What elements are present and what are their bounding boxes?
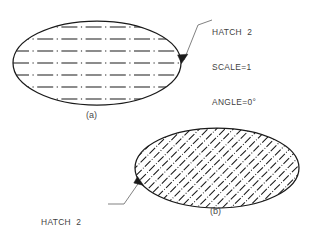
- hatch-fill-a: [13, 27, 181, 99]
- figure-a-caption: (a): [86, 110, 97, 120]
- hatch-note-bottom: HATCH 2 SCALE=0.5 ANGLE=45°: [41, 194, 90, 239]
- hatch-note-top-scale: SCALE=1: [212, 62, 256, 74]
- hatch-note-bottom-pattern: HATCH 2: [41, 217, 90, 229]
- figure-b-caption: (b): [210, 206, 221, 216]
- leader-top: [178, 20, 212, 64]
- hatch-note-top-pattern: HATCH 2: [212, 27, 256, 39]
- leader-bottom-line: [108, 181, 140, 204]
- figure-b-group: [71, 22, 319, 239]
- leader-top-arrowhead: [178, 54, 188, 63]
- hatch-note-top: HATCH 2 SCALE=1 ANGLE=0°: [212, 4, 256, 120]
- figure-a-group: [13, 21, 181, 105]
- hatch-note-top-angle: ANGLE=0°: [212, 97, 256, 109]
- leader-bottom: [108, 177, 144, 205]
